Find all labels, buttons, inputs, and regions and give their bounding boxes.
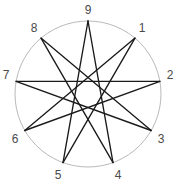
vertex-label-9: 9 bbox=[85, 4, 92, 16]
star-edge-8-3 bbox=[41, 38, 151, 130]
vertex-label-3: 3 bbox=[158, 133, 165, 145]
star-edges-group bbox=[16, 21, 160, 163]
vertex-label-1: 1 bbox=[139, 22, 146, 34]
vertex-label-2: 2 bbox=[167, 69, 174, 81]
star-edge-2-6 bbox=[25, 81, 160, 130]
vertex-label-8: 8 bbox=[31, 22, 38, 34]
star-polygon-figure: 123456789 bbox=[0, 0, 181, 189]
vertex-label-4: 4 bbox=[115, 169, 122, 181]
vertex-label-5: 5 bbox=[55, 169, 62, 181]
vertex-label-7: 7 bbox=[3, 69, 10, 81]
vertex-label-6: 6 bbox=[12, 133, 19, 145]
star-edge-6-1 bbox=[25, 38, 135, 130]
star-polygon-svg bbox=[0, 0, 181, 189]
star-edge-3-7 bbox=[16, 81, 151, 130]
outer-circle bbox=[15, 21, 161, 167]
